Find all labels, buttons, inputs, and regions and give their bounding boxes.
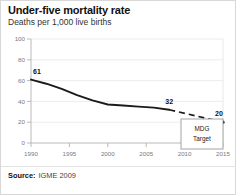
chart-plot-area: 020406080100 199019952000200520102015 61… [1,31,236,159]
data-point-labels: 613220 [33,68,223,118]
mdg-target-line2: Target [193,135,211,143]
source-label: Source: [8,171,36,180]
grid-lines [31,39,223,122]
y-axis: 020406080100 [15,35,31,146]
data-point-label: 61 [33,68,41,75]
y-axis-tick-label: 20 [18,118,25,125]
y-axis-tick-label: 60 [18,77,25,84]
source-value: IGME 2009 [39,171,76,180]
mdg-target-line1: MDG [195,125,210,132]
chart-subtitle: Deaths per 1,000 live births [8,17,111,27]
data-point-label: 20 [215,110,223,117]
y-axis-tick-label: 80 [18,56,25,63]
x-axis-tick-label: 2000 [101,150,115,157]
x-axis-tick-label: 2010 [178,150,192,157]
source-note: Source:IGME 2009 [8,171,76,180]
x-axis-tick-label: 2005 [139,150,153,157]
x-axis-tick-label: 1990 [24,150,38,157]
y-axis-tick-label: 40 [18,98,25,105]
y-axis-tick-label: 0 [22,139,26,146]
series-observed-line [31,80,169,110]
x-axis-tick-label: 2015 [216,150,230,157]
page-title: Under-five mortality rate [8,4,130,16]
y-axis-tick-label: 100 [15,35,26,42]
x-axis-tick-label: 1995 [63,150,77,157]
line-chart-svg: 020406080100 199019952000200520102015 61… [1,31,236,159]
chart-card: Under-five mortality rate Deaths per 1,0… [0,0,236,195]
mdg-target-callout: MDG Target [181,119,223,149]
source-divider [1,166,236,167]
data-point-label: 32 [165,98,173,105]
